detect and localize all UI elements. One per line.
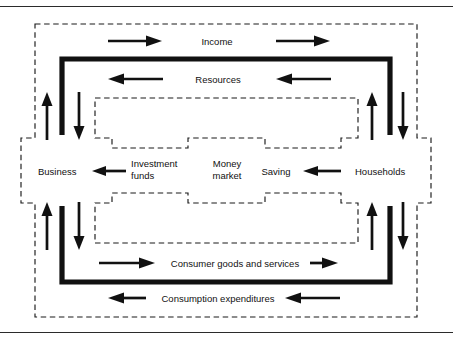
arrow-up-outer-left-top xyxy=(42,92,53,140)
market-label-money-market-line2: market xyxy=(212,170,241,181)
bold-channel-upper xyxy=(62,59,390,135)
arrow-right-consumer-goods-right xyxy=(310,258,338,269)
market-label-money-market-line1: Money xyxy=(213,158,242,169)
flow-label-consumer-goods: Consumer goods and services xyxy=(171,258,300,269)
money-market-upper-dashed xyxy=(95,98,358,148)
sector-label-households: Households xyxy=(355,166,405,177)
arrow-down-outer-right-top xyxy=(398,92,409,140)
sector-label-business: Business xyxy=(38,166,77,177)
arrow-right-income-right xyxy=(276,36,330,47)
money-market-lower-dashed xyxy=(95,193,358,243)
arrow-right-income-left xyxy=(108,36,162,47)
arrow-up-inner-right-top xyxy=(367,92,378,140)
arrow-up-inner-right-bottom xyxy=(367,202,378,250)
arrow-down-inner-left-bottom xyxy=(74,202,85,250)
circular-flow-figure: Income Resources Business Investment fun… xyxy=(0,0,453,341)
flow-label-investment-funds-line2: funds xyxy=(131,170,154,181)
arrow-down-outer-right-bottom xyxy=(398,202,409,250)
arrow-up-outer-left-bottom xyxy=(42,202,53,250)
flow-label-investment-funds-line1: Investment xyxy=(131,158,178,169)
arrow-left-investment-funds xyxy=(92,166,126,176)
arrow-left-saving xyxy=(303,166,341,176)
arrow-left-consumption-left xyxy=(108,293,146,304)
arrow-right-consumer-goods-left xyxy=(99,258,155,269)
arrow-left-resources-right xyxy=(276,74,331,85)
arrow-down-inner-left-top xyxy=(74,92,85,140)
flow-label-saving: Saving xyxy=(261,166,290,177)
flow-label-consumption-expenditures: Consumption expenditures xyxy=(161,293,274,304)
flow-label-income: Income xyxy=(201,36,232,47)
circular-flow-diagram: Income Resources Business Investment fun… xyxy=(0,0,453,341)
arrow-left-resources-left xyxy=(108,74,163,85)
arrow-left-consumption-right xyxy=(285,293,340,304)
flow-label-resources: Resources xyxy=(195,74,241,85)
